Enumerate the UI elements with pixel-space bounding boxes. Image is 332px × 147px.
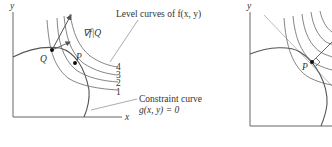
x-axis-label: x xyxy=(124,112,130,122)
normal-vector xyxy=(312,42,332,62)
constraint-label-line1: Constraint curve xyxy=(139,94,202,104)
level-curves-leader xyxy=(110,20,138,62)
right-y-axis-label: y xyxy=(246,1,252,11)
right-constraint-curve xyxy=(250,48,327,126)
left-panel: y x Q P ∇f|Q Level curves of f(x, y) 4 3… xyxy=(9,1,202,122)
constraint-leader xyxy=(91,99,137,110)
right-point-p xyxy=(310,60,314,64)
right-level-curve-3 xyxy=(302,14,332,57)
constraint-label-line2: g(x, y) = 0 xyxy=(139,105,179,116)
level-curves-label-text: Level curves of f(x, y) xyxy=(116,9,201,20)
point-q xyxy=(50,48,54,52)
level-curves-label: Level curves of f(x, y) xyxy=(116,9,201,20)
right-level-curve-1 xyxy=(284,18,332,85)
right-panel: y P xyxy=(246,1,332,126)
right-point-p-label: P xyxy=(301,62,308,72)
y-axis-label: y xyxy=(9,1,15,11)
point-q-label: Q xyxy=(40,54,47,64)
gradient-label: ∇f|Q xyxy=(83,28,101,38)
point-p-label: P xyxy=(75,52,82,62)
lagrange-multiplier-diagram: y x Q P ∇f|Q Level curves of f(x, y) 4 3… xyxy=(0,0,332,147)
gradient-arrow xyxy=(52,15,71,50)
right-level-curve-5 xyxy=(320,11,332,32)
level-value-1: 1 xyxy=(116,87,121,97)
